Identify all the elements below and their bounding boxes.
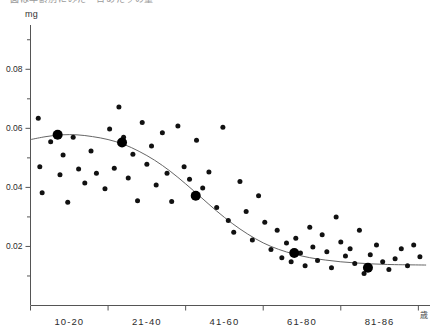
- data-point: [94, 171, 99, 176]
- data-point: [126, 175, 131, 180]
- data-point: [348, 246, 353, 251]
- data-point: [149, 144, 154, 149]
- data-point: [140, 120, 145, 125]
- data-point: [417, 254, 422, 259]
- data-point: [279, 255, 284, 260]
- data-point: [154, 183, 159, 188]
- data-point: [187, 177, 192, 182]
- y-tick-label: 0.06: [6, 123, 23, 133]
- data-point: [65, 200, 70, 205]
- y-tick-label: 0.08: [6, 64, 23, 74]
- data-point: [399, 246, 404, 251]
- sigmoid-trend-curve: [31, 135, 427, 265]
- data-point: [237, 179, 242, 184]
- data-point: [324, 249, 329, 254]
- data-point: [386, 267, 391, 272]
- data-point: [40, 190, 45, 195]
- data-point: [307, 225, 312, 230]
- data-point: [165, 171, 170, 176]
- data-point: [182, 164, 187, 169]
- scatter-point-group: [36, 105, 423, 277]
- data-point: [48, 139, 53, 144]
- x-category-label: 41-60: [210, 316, 240, 327]
- group-mean-point: [117, 138, 127, 148]
- x-category-label: 21-40: [132, 316, 162, 327]
- data-point: [310, 245, 315, 250]
- data-point: [175, 123, 180, 128]
- data-point: [368, 252, 373, 257]
- group-mean-point: [191, 191, 201, 201]
- data-point: [338, 240, 343, 245]
- x-category-label: 61-80: [287, 316, 317, 327]
- data-point: [329, 265, 334, 270]
- x-category-label: 81-86: [365, 316, 395, 327]
- data-point: [315, 258, 320, 263]
- data-point: [206, 170, 211, 175]
- data-point: [256, 193, 261, 198]
- data-point: [214, 205, 219, 210]
- data-point: [82, 180, 87, 185]
- data-point: [36, 116, 41, 121]
- scatter-plot: 0.020.040.060.08 10-2021-4041-6061-8081-…: [0, 0, 437, 334]
- data-point: [352, 261, 357, 266]
- data-point: [200, 185, 205, 190]
- data-point: [374, 242, 379, 247]
- data-point: [102, 186, 107, 191]
- data-point: [226, 218, 231, 223]
- data-point: [112, 166, 117, 171]
- y-tick-label: 0.02: [6, 241, 23, 251]
- data-point: [393, 256, 398, 261]
- data-point: [169, 199, 174, 204]
- data-point: [268, 247, 273, 252]
- x-tick-group: [31, 306, 419, 311]
- data-point: [37, 164, 42, 169]
- group-mean-point: [289, 248, 299, 258]
- group-mean-point: [53, 130, 63, 140]
- data-point: [343, 253, 348, 258]
- data-point: [61, 152, 66, 157]
- data-point: [231, 230, 236, 235]
- data-point: [289, 259, 294, 264]
- x-category-label-group: 10-2021-4041-6061-8081-86: [54, 316, 394, 327]
- data-point: [334, 214, 339, 219]
- data-point: [293, 236, 298, 241]
- data-point: [357, 228, 362, 233]
- data-point: [405, 263, 410, 268]
- data-point: [116, 105, 121, 110]
- y-tick-group: [26, 40, 31, 276]
- x-category-label: 10-20: [54, 316, 84, 327]
- data-point: [244, 209, 249, 214]
- data-point: [250, 237, 255, 242]
- data-point: [220, 125, 225, 130]
- data-point: [320, 232, 325, 237]
- data-point: [71, 135, 76, 140]
- data-point: [57, 172, 62, 177]
- data-point: [89, 149, 94, 154]
- data-point: [76, 167, 81, 172]
- data-point: [411, 242, 416, 247]
- group-mean-point: [363, 263, 373, 273]
- data-point: [303, 263, 308, 268]
- data-point: [262, 220, 267, 225]
- data-point: [130, 152, 135, 157]
- data-point: [160, 130, 165, 135]
- data-point: [135, 198, 140, 203]
- y-tick-label: 0.04: [6, 182, 23, 192]
- data-point: [380, 259, 385, 264]
- data-point: [284, 240, 289, 245]
- data-point: [144, 162, 149, 167]
- data-point: [194, 138, 199, 143]
- data-point: [275, 228, 280, 233]
- y-tick-label-group: 0.020.040.060.08: [6, 64, 23, 251]
- data-point: [107, 126, 112, 131]
